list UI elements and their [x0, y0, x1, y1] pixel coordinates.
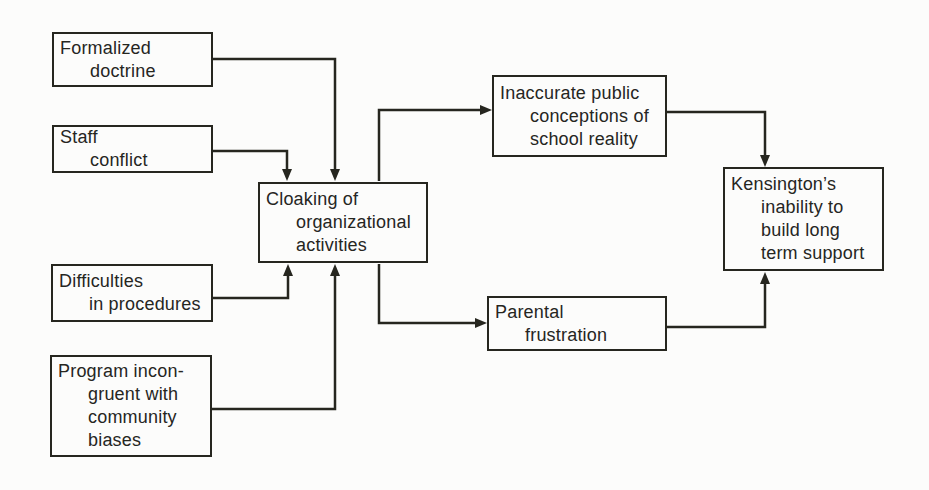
node-text-line: biases	[58, 429, 207, 452]
node-text-line: gruent with	[58, 383, 207, 406]
node-text-line: term support	[731, 242, 879, 265]
edge-formalized-to-cloaking	[213, 59, 340, 181]
edge-cloaking-to-inaccurate	[379, 105, 492, 181]
node-text-line: frustration	[495, 324, 662, 347]
node-text-line: Staff	[60, 126, 208, 149]
node-text-line: Program incon-	[58, 360, 207, 383]
node-text-line: organizational	[266, 211, 423, 234]
node-text-line: activities	[266, 234, 423, 257]
node-text-line: Formalized	[60, 37, 208, 60]
flow-diagram: Formalized doctrine Staff conflict Diffi…	[0, 0, 929, 490]
node-text-line: conceptions of	[500, 105, 662, 128]
edge-parental-to-kensington	[667, 272, 770, 327]
node-text-line: Parental	[495, 301, 662, 324]
edge-inaccurate-to-kensington	[667, 112, 770, 167]
edge-difficulties-to-cloaking	[213, 264, 293, 298]
node-text-line: Cloaking of	[266, 188, 423, 211]
node-formalized-doctrine: Formalized doctrine	[52, 32, 213, 87]
node-text-line: Kensington’s	[731, 173, 879, 196]
node-cloaking-of-organizational-activities: Cloaking of organizational activities	[258, 182, 428, 263]
node-difficulties-in-procedures: Difficulties in procedures	[51, 264, 213, 322]
node-text-line: in procedures	[59, 293, 208, 316]
edge-staff-to-cloaking	[213, 151, 292, 181]
node-text-line: Inaccurate public	[500, 82, 662, 105]
node-text-line: school reality	[500, 128, 662, 151]
node-text-line: Difficulties	[59, 270, 208, 293]
node-parental-frustration: Parental frustration	[487, 296, 667, 351]
node-inaccurate-public-conceptions: Inaccurate public conceptions of school …	[492, 75, 667, 157]
edge-cloaking-to-parental	[379, 264, 487, 328]
node-staff-conflict: Staff conflict	[52, 125, 213, 173]
node-text-line: doctrine	[60, 60, 208, 83]
node-kensington-inability-support: Kensington’s inability to build long ter…	[723, 167, 884, 271]
node-text-line: build long	[731, 219, 879, 242]
node-text-line: community	[58, 406, 207, 429]
edge-program-to-cloaking	[212, 264, 340, 409]
node-text-line: conflict	[60, 149, 208, 172]
node-program-incongruent: Program incon- gruent with community bia…	[50, 355, 212, 457]
node-text-line: inability to	[731, 196, 879, 219]
